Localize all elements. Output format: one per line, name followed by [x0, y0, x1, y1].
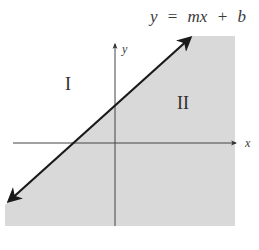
equation-lhs: y	[148, 7, 158, 26]
region-ii-shading	[5, 36, 235, 226]
region-ii-label: II	[177, 93, 189, 113]
region-i-label: I	[65, 74, 71, 94]
inequality-diagram: y = mx + b y x I II	[0, 0, 259, 250]
x-axis-label: x	[244, 136, 251, 150]
y-axis-label: y	[121, 42, 128, 56]
equation-equals: =	[168, 7, 178, 26]
equation-slope-term: mx	[188, 7, 208, 26]
equation-plus: +	[218, 7, 228, 26]
equation-intercept: b	[238, 7, 247, 26]
equation-label: y = mx + b	[148, 7, 246, 26]
